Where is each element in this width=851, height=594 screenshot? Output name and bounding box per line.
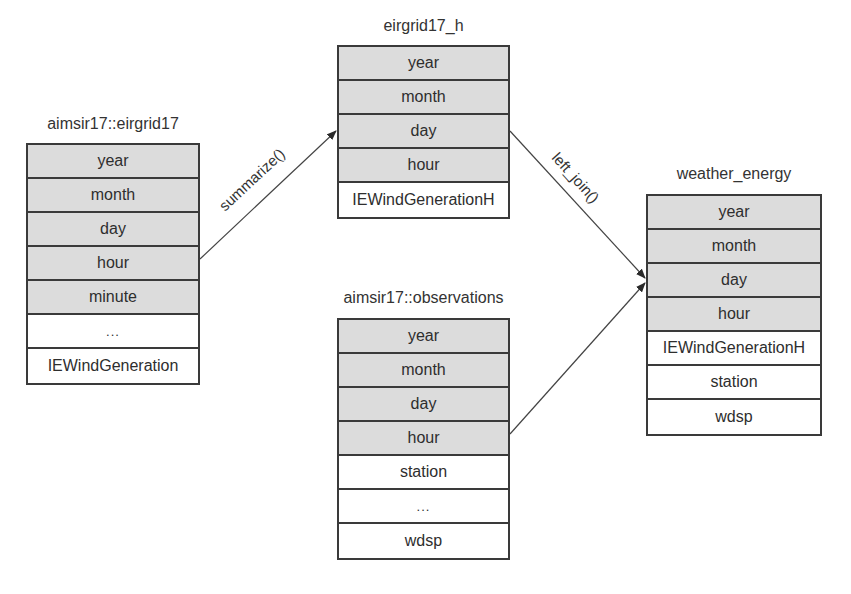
edges-layer [0,0,851,594]
edge-left-join-arrow [510,131,645,278]
edge-summarize-arrow [200,131,336,259]
edge-observations-arrow [510,283,645,434]
